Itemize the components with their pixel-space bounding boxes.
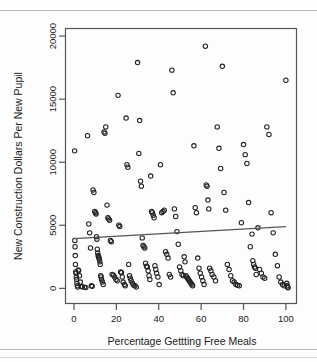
- data-point: [275, 263, 279, 267]
- data-point: [73, 262, 77, 266]
- page-rule-bottom-secondary: [0, 357, 317, 358]
- x-axis-title: Percentage Gettting Free Meals: [108, 335, 257, 347]
- data-point: [267, 132, 271, 136]
- data-point: [88, 246, 92, 250]
- data-point: [196, 256, 200, 260]
- data-point: [126, 262, 130, 266]
- data-point: [218, 166, 222, 170]
- data-point: [176, 242, 180, 246]
- data-point: [248, 245, 252, 249]
- data-point: [271, 231, 275, 235]
- data-point: [194, 210, 198, 214]
- data-point: [229, 274, 233, 278]
- data-point: [170, 68, 174, 72]
- page-rule-bottom: [0, 349, 317, 350]
- data-point: [157, 282, 161, 286]
- data-point: [172, 207, 176, 211]
- data-point: [105, 203, 109, 207]
- data-point: [72, 149, 76, 153]
- data-point: [139, 184, 143, 188]
- data-point: [193, 205, 197, 209]
- data-point: [239, 221, 243, 225]
- data-point: [250, 232, 254, 236]
- x-tick-label: 40: [153, 313, 164, 324]
- figure-container: New Construction Dollars Per New Pupil P…: [0, 0, 317, 362]
- data-point: [206, 198, 210, 202]
- x-tick-label: 60: [196, 313, 207, 324]
- data-point: [265, 125, 269, 129]
- data-point: [183, 260, 187, 264]
- data-point: [137, 118, 141, 122]
- y-tick-label: 10000: [47, 149, 58, 175]
- data-point: [158, 163, 162, 167]
- x-tick-label: 0: [71, 313, 76, 324]
- data-point: [140, 236, 144, 240]
- data-point: [222, 190, 226, 194]
- data-point: [220, 64, 224, 68]
- data-point: [174, 214, 178, 218]
- y-tick-label: 15000: [47, 86, 58, 112]
- data-point: [85, 134, 89, 138]
- data-point: [225, 262, 229, 266]
- data-point: [224, 208, 228, 212]
- data-point: [245, 161, 249, 165]
- x-axis-ticks: 020406080100: [71, 304, 294, 325]
- data-point: [277, 275, 281, 279]
- data-point: [254, 272, 258, 276]
- data-points-group: [72, 44, 290, 290]
- data-point: [243, 152, 247, 156]
- y-axis-ticks: 05000100001500020000: [47, 23, 66, 291]
- data-point: [73, 253, 77, 257]
- data-point: [269, 210, 273, 214]
- x-tick-label: 20: [111, 313, 122, 324]
- data-point: [273, 252, 277, 256]
- data-point: [207, 207, 211, 211]
- y-tick-label: 5000: [47, 215, 58, 236]
- data-point: [241, 142, 245, 146]
- data-point: [148, 174, 152, 178]
- data-point: [124, 116, 128, 120]
- data-point: [284, 78, 288, 82]
- scatter-plot: New Construction Dollars Per New Pupil P…: [0, 0, 317, 362]
- data-point: [87, 222, 91, 226]
- data-point: [87, 231, 91, 235]
- data-point: [197, 266, 201, 270]
- data-point: [104, 125, 108, 129]
- x-tick-label: 100: [278, 313, 294, 324]
- x-tick-label: 80: [238, 313, 249, 324]
- data-point: [137, 151, 141, 155]
- data-point: [203, 44, 207, 48]
- data-point: [246, 200, 250, 204]
- data-point: [182, 255, 186, 259]
- data-point: [116, 93, 120, 97]
- y-axis-title: New Construction Dollars Per New Pupil: [12, 72, 24, 260]
- data-point: [192, 144, 196, 148]
- y-tick-label: 0: [47, 286, 58, 291]
- data-point: [215, 125, 219, 129]
- data-point: [217, 146, 221, 150]
- data-point: [138, 179, 142, 183]
- data-point: [227, 267, 231, 271]
- data-point: [135, 60, 139, 64]
- data-point: [120, 275, 124, 279]
- y-tick-label: 20000: [47, 23, 58, 49]
- data-point: [213, 279, 217, 283]
- data-point: [171, 91, 175, 95]
- data-point: [73, 245, 77, 249]
- page-rule-top: [0, 10, 317, 11]
